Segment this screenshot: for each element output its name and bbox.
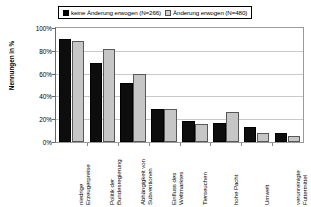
x-tick-mark [118, 143, 119, 146]
bar-group [87, 28, 118, 142]
x-axis-label: Politik der Bundesregierung [108, 147, 122, 205]
y-axis-title: Nennungen in % [8, 31, 15, 101]
bar [72, 41, 85, 142]
bar [244, 127, 257, 142]
x-axis-label: Tierseuchen [201, 147, 208, 205]
bars-layer [56, 28, 303, 142]
y-tick-mark [52, 51, 55, 52]
bar-group [241, 28, 272, 142]
bar [103, 49, 116, 142]
y-tick-mark [52, 142, 55, 143]
x-tick-mark [87, 143, 88, 146]
x-tick-mark [272, 143, 273, 146]
x-axis-label: Umwelt [263, 147, 270, 205]
bar [120, 83, 133, 142]
x-axis-label: hohe Pacht [232, 147, 239, 205]
y-tick-label: 60% [22, 70, 52, 77]
bar [226, 112, 239, 142]
y-tick-mark [52, 119, 55, 120]
bar [90, 63, 103, 142]
legend-entry-keine-aenderung: keine Änderung erwogen (N=266) [63, 9, 161, 16]
bar-group [210, 28, 241, 142]
bar [288, 136, 301, 142]
x-axis-labels: niedrige ErzeugerpreisePolitik der Bunde… [56, 147, 303, 207]
y-tick-label: 20% [22, 116, 52, 123]
bar-group [180, 28, 211, 142]
x-tick-mark [210, 143, 211, 146]
legend-label-aenderung: Änderung erwogen (N=480) [173, 9, 247, 16]
bar [151, 109, 164, 142]
bar [182, 121, 195, 142]
y-tick-label: 0% [22, 139, 52, 146]
bar-group [118, 28, 149, 142]
y-tick-mark [52, 74, 55, 75]
bar-chart-figure: keine Änderung erwogen (N=266) Änderung … [0, 0, 311, 207]
bar [257, 133, 270, 142]
x-tick-mark [180, 143, 181, 146]
chart-legend: keine Änderung erwogen (N=266) Änderung … [58, 6, 252, 19]
y-tick-mark [52, 28, 55, 29]
x-axis-label: Einfluss des Weltmarktes [170, 147, 184, 205]
bar [213, 123, 226, 142]
bar-group [149, 28, 180, 142]
x-axis-label: Abhängigkeit von Subventionen [139, 147, 153, 205]
legend-entry-aenderung: Änderung erwogen (N=480) [165, 9, 247, 16]
bar [59, 39, 72, 142]
y-tick-label: 40% [22, 93, 52, 100]
x-axis-label: niedrige Erzeugerpreise [77, 147, 91, 205]
bar [164, 109, 177, 142]
x-axis-label: verunreinigte Futtermittel [294, 147, 308, 205]
x-tick-mark [149, 143, 150, 146]
bar [275, 133, 288, 142]
bar [195, 124, 208, 142]
bar [133, 74, 146, 142]
x-tick-mark [241, 143, 242, 146]
bar-group [56, 28, 87, 142]
legend-swatch-light-icon [165, 10, 171, 16]
y-tick-label: 80% [22, 47, 52, 54]
legend-swatch-dark-icon [63, 10, 69, 16]
y-tick-label: 100% [22, 25, 52, 32]
legend-label-keine-aenderung: keine Änderung erwogen (N=266) [71, 9, 161, 16]
bar-group [272, 28, 303, 142]
y-tick-mark [52, 96, 55, 97]
